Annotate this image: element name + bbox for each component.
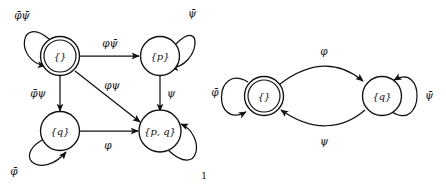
transition-p-to-pq-label: ψ (167, 87, 176, 99)
r-transition-q-self-label: ψ̄ (425, 89, 434, 101)
transition-empty-self-label: φ̄ψ̄ (14, 9, 30, 21)
figure-root: {} {p} {q} {p, q} φ̄ψ̄ φψ̄ φ̄ψ φψ ψ̄ ψ φ… (0, 0, 446, 191)
state-pq-label: {p, q} (144, 126, 176, 137)
r-state-q-label: {q} (372, 91, 391, 102)
transition-q-to-pq-label: φ (104, 139, 112, 151)
r-state-q[interactable]: {q} (363, 77, 402, 116)
transition-p-self-label: ψ̄ (188, 7, 197, 19)
transition-empty-to-q-label: φ̄ψ (30, 87, 46, 99)
r-state-empty[interactable]: {} (245, 77, 284, 116)
r-transition-empty-to-q-arc (280, 66, 363, 84)
state-empty[interactable]: {} (41, 37, 80, 76)
state-q[interactable]: {q} (41, 112, 80, 151)
state-p-label: {p} (150, 51, 169, 62)
state-p[interactable]: {p} (141, 37, 180, 76)
figure-number: 1 (201, 171, 207, 181)
transition-empty-to-pq-label: φψ (104, 79, 120, 91)
state-q-label: {q} (50, 126, 69, 137)
state-empty-label: {} (54, 51, 67, 62)
r-transition-empty-to-q-label: φ (320, 45, 328, 57)
r-transition-empty-self-label: φ̄ (211, 86, 219, 98)
right-automaton: {} {q} φ̄ φ ψ ψ̄ (211, 45, 434, 147)
r-transition-q-to-empty-arc (281, 110, 365, 126)
left-automaton: {} {p} {q} {p, q} φ̄ψ̄ φψ̄ φ̄ψ φψ ψ̄ ψ φ… (10, 7, 197, 177)
automata-figure: {} {p} {q} {p, q} φ̄ψ̄ φψ̄ φ̄ψ φψ ψ̄ ψ φ… (0, 0, 446, 191)
r-transition-q-to-empty-label: ψ (320, 135, 329, 147)
transition-q-self-label: φ̄ (10, 165, 18, 177)
transition-empty-to-p-label: φψ̄ (102, 37, 118, 49)
r-state-empty-label: {} (258, 91, 271, 102)
state-pq[interactable]: {p, q} (139, 110, 181, 152)
